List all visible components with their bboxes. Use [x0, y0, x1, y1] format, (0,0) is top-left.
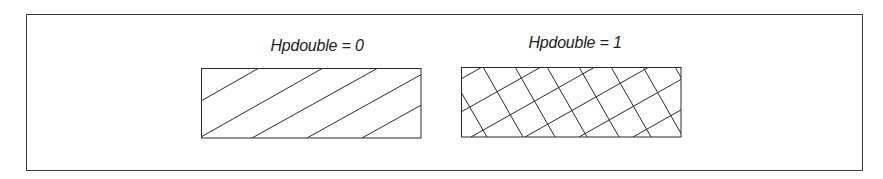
- cross-hatch-rectangle: [461, 67, 682, 138]
- panel-label-hpdouble-1: Hpdouble = 1: [528, 34, 621, 52]
- panel-label-hpdouble-0: Hpdouble = 0: [270, 37, 363, 55]
- figure-frame: [26, 14, 863, 171]
- single-hatch-rectangle: [201, 68, 422, 139]
